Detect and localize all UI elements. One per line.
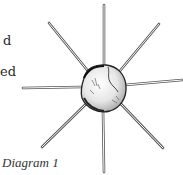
ball-with-sticks-diagram: [0, 0, 183, 175]
figure-caption: Diagram 1: [2, 155, 59, 171]
ball: [81, 65, 126, 112]
stick-highlight: [42, 104, 86, 147]
stick-highlight: [121, 104, 163, 148]
stick-highlight: [49, 23, 88, 71]
stick-highlight: [125, 80, 182, 85]
stick-highlight: [119, 24, 159, 72]
